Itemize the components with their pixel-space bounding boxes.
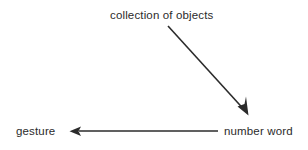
edge-collection-to-number-word-arrowhead (238, 97, 249, 116)
edge-collection-to-number-word-line (168, 26, 244, 109)
diagram-canvas: collection of objects gesture number wor… (0, 0, 308, 150)
node-label-number-word: number word (224, 125, 293, 138)
node-label-collection-of-objects: collection of objects (110, 9, 214, 22)
node-label-gesture: gesture (16, 125, 55, 138)
edge-number-word-to-gesture (70, 127, 219, 137)
edge-collection-to-number-word (168, 26, 249, 116)
